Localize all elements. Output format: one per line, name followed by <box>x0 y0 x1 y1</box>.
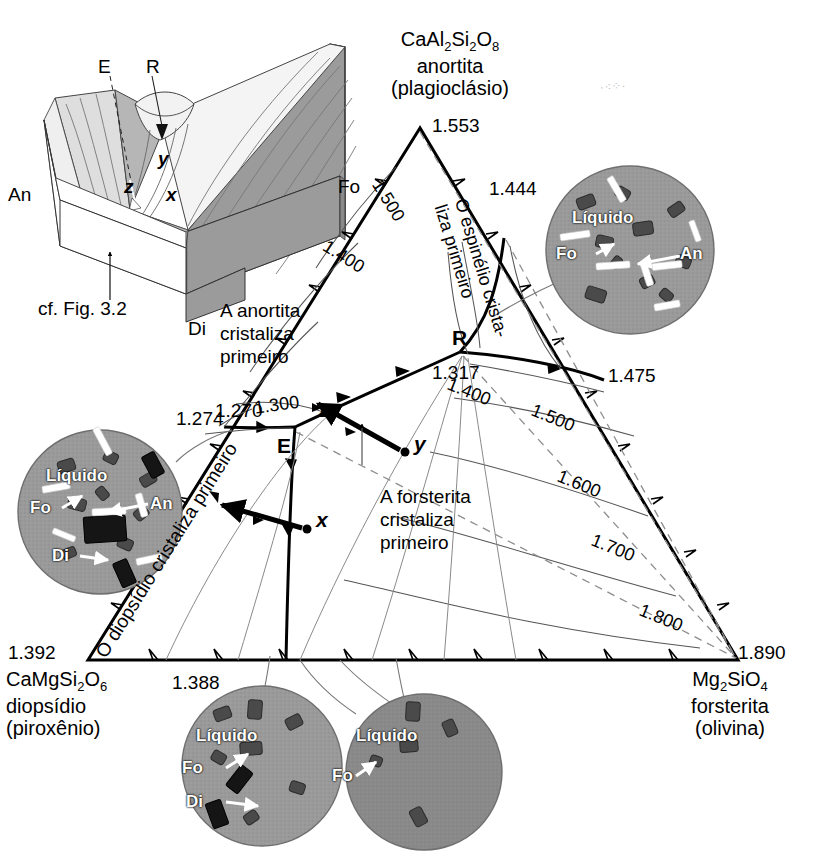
anorthite-group: (plagioclásio) <box>355 77 545 99</box>
micrograph4-liquid-label: Líquido <box>356 726 417 746</box>
inset-label-Di: Di <box>188 318 206 340</box>
field-fo-line1: A forsterita <box>380 486 471 509</box>
inset-label-y: y <box>158 148 169 170</box>
figure-root: CaAl2Si2O8 anortita (plagioclásio) 1.553… <box>0 0 825 854</box>
corner-label-forsterite: Mg2SiO4 forsterita (olivina) <box>640 668 820 739</box>
inset-label-z: z <box>124 176 134 198</box>
inset-block-diagram <box>44 44 356 322</box>
micrograph1-an-label: An <box>680 244 703 264</box>
forsterite-formula: Mg2SiO4 <box>640 668 820 695</box>
diopside-mineral: diopsídio <box>6 695 186 717</box>
value-an-di-edge: 1.274 <box>176 408 224 429</box>
corner-label-anorthite: CaAl2Si2O8 anortita (plagioclásio) <box>355 28 545 99</box>
micrograph1-fo-label: Fo <box>556 244 577 264</box>
micrograph2-an-label: An <box>150 494 173 514</box>
field-an-line3: primeiro <box>220 346 300 369</box>
micrograph2-liquid-label: Líquido <box>46 466 107 486</box>
corner-label-diopside: CaMgSi2O6 diopsídio (piroxênio) <box>6 668 186 739</box>
point-label-E: E <box>277 434 291 458</box>
scan-artifact-smudge: ·⁖⁘· <box>600 79 627 94</box>
point-label-x: x <box>316 508 328 532</box>
field-fo-line3: primeiro <box>380 532 471 555</box>
anorthite-formula: CaAl2Si2O8 <box>355 28 545 55</box>
value-diopside-corner: 1.392 <box>8 642 56 663</box>
field-an-line2: cristaliza <box>220 323 300 346</box>
micrograph2-fo-label: Fo <box>30 498 51 518</box>
inset-caption-cf-fig: cf. Fig. 3.2 <box>38 298 127 320</box>
micrograph4-fo-label: Fo <box>332 766 353 786</box>
diopside-formula: CaMgSi2O6 <box>6 668 186 695</box>
field-an-line1: A anortita <box>220 300 300 323</box>
micrograph2-di-label: Di <box>52 546 69 566</box>
field-label-forsterite: A forsterita cristaliza primeiro <box>380 486 471 554</box>
diopside-group: (piroxênio) <box>6 717 186 739</box>
anorthite-mineral: anortita <box>355 55 545 77</box>
value-di-fo-cotectic: 1.388 <box>172 672 220 693</box>
field-fo-line2: cristaliza <box>380 509 471 532</box>
point-label-R: R <box>452 326 467 350</box>
forsterite-group: (olivina) <box>640 717 820 739</box>
inset-label-x: x <box>166 184 177 206</box>
point-label-y: y <box>414 432 426 456</box>
micrograph3-liquid-label: Líquido <box>196 726 257 746</box>
value-an-sp-edge: 1.444 <box>489 178 537 199</box>
inset-label-R: R <box>146 56 160 78</box>
micrograph-fo-di <box>182 686 342 846</box>
value-forsterite-corner: 1.890 <box>738 642 786 663</box>
inset-label-E: E <box>98 56 111 78</box>
forsterite-mineral: forsterita <box>640 695 820 717</box>
value-fo-sp-edge: 1.475 <box>608 365 656 386</box>
value-anorthite-apex: 1.553 <box>432 115 480 136</box>
micrograph1-liquid-label: Líquido <box>572 208 633 228</box>
inset-label-An: An <box>8 184 31 206</box>
edge-label-fo: Fo <box>338 176 360 197</box>
field-label-anorthite: A anortita cristaliza primeiro <box>220 300 300 368</box>
micrograph-fo <box>346 694 502 850</box>
point-label-z: z <box>318 398 329 422</box>
micrograph3-fo-label: Fo <box>182 758 203 778</box>
micrograph3-di-label: Di <box>186 792 203 812</box>
